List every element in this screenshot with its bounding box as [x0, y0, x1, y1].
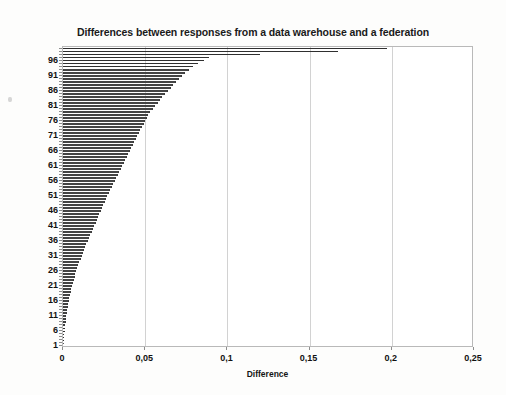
bar [63, 228, 93, 230]
bar [63, 96, 162, 98]
y-tick-mark [59, 96, 62, 97]
y-tick-mark [59, 321, 62, 322]
y-tick-mark [59, 180, 62, 181]
y-tick-mark [59, 309, 62, 310]
bar [63, 240, 88, 242]
y-tick-mark [59, 114, 62, 115]
bar [63, 249, 84, 251]
y-tick-label: 6 [53, 326, 58, 335]
bar [63, 328, 65, 330]
y-tick-mark [59, 141, 62, 142]
y-tick-mark [59, 276, 62, 277]
y-tick-mark [59, 150, 62, 151]
y-tick-mark [59, 255, 62, 256]
bar [63, 111, 150, 113]
y-tick-mark [59, 234, 62, 235]
y-tick-mark [59, 333, 62, 334]
y-axis: 16111621263136414651566166717681869196 [40, 46, 62, 347]
bar [63, 69, 189, 71]
bar [63, 99, 160, 101]
bar [63, 331, 65, 333]
y-tick-mark [59, 222, 62, 223]
bar [63, 168, 121, 170]
x-tick-mark [309, 347, 310, 350]
y-tick-mark [59, 165, 62, 166]
bar [63, 207, 102, 209]
bar [63, 57, 209, 59]
y-tick-label: 91 [48, 70, 58, 79]
bar [63, 321, 66, 323]
bar [63, 195, 107, 197]
bar [63, 84, 173, 86]
y-tick-mark [59, 225, 62, 226]
y-tick-mark [59, 177, 62, 178]
y-tick-label: 26 [48, 266, 58, 275]
y-tick-mark [59, 324, 62, 325]
bar [63, 162, 124, 164]
y-tick-mark [59, 288, 62, 289]
y-tick-label: 41 [48, 221, 58, 230]
bar [63, 222, 96, 224]
y-tick-mark [59, 66, 62, 67]
y-tick-mark [59, 138, 62, 139]
bar [63, 114, 148, 116]
bar [63, 267, 77, 269]
y-tick-mark [59, 279, 62, 280]
bar [63, 264, 78, 266]
bar [63, 189, 110, 191]
y-tick-mark [59, 159, 62, 160]
bar [63, 174, 118, 176]
y-tick-mark [59, 144, 62, 145]
bar [63, 198, 106, 200]
bar [63, 156, 127, 158]
y-tick-mark [59, 69, 62, 70]
x-tick-mark [473, 347, 474, 350]
bar [63, 309, 67, 311]
y-tick-mark [59, 168, 62, 169]
bar [63, 252, 83, 254]
y-tick-mark [59, 156, 62, 157]
bar [63, 177, 116, 179]
x-tick-mark [226, 347, 227, 350]
y-tick-mark [59, 294, 62, 295]
y-tick-label: 51 [48, 190, 58, 199]
bar [63, 108, 153, 110]
bar [63, 306, 68, 308]
bar [63, 261, 79, 263]
y-tick-mark [59, 303, 62, 304]
bar [63, 294, 70, 296]
y-tick-mark [59, 219, 62, 220]
bar [63, 210, 101, 212]
y-tick-label: 96 [48, 55, 58, 64]
bar [63, 66, 193, 68]
y-tick-mark [59, 261, 62, 262]
bar [63, 75, 182, 77]
bar [63, 246, 85, 248]
y-tick-mark [59, 249, 62, 250]
y-tick-mark [59, 129, 62, 130]
y-tick-mark [59, 99, 62, 100]
x-tick-label: 0,1 [220, 353, 233, 363]
x-tick-label: 0,15 [300, 353, 318, 363]
y-tick-mark [59, 78, 62, 79]
y-tick-label: 16 [48, 296, 58, 305]
bar [63, 54, 260, 56]
y-tick-mark [59, 63, 62, 64]
bar [63, 273, 75, 275]
y-tick-mark [59, 117, 62, 118]
y-tick-label: 66 [48, 145, 58, 154]
bar [63, 126, 142, 128]
y-tick-mark [59, 207, 62, 208]
bar [63, 150, 130, 152]
bar [63, 90, 168, 92]
bar [63, 337, 64, 339]
bar [63, 300, 69, 302]
y-tick-mark [59, 195, 62, 196]
bar [63, 318, 66, 320]
y-tick-mark [59, 300, 62, 301]
y-tick-mark [59, 174, 62, 175]
bar [63, 297, 69, 299]
y-tick-mark [59, 51, 62, 52]
bar [63, 132, 139, 134]
bar [63, 141, 134, 143]
